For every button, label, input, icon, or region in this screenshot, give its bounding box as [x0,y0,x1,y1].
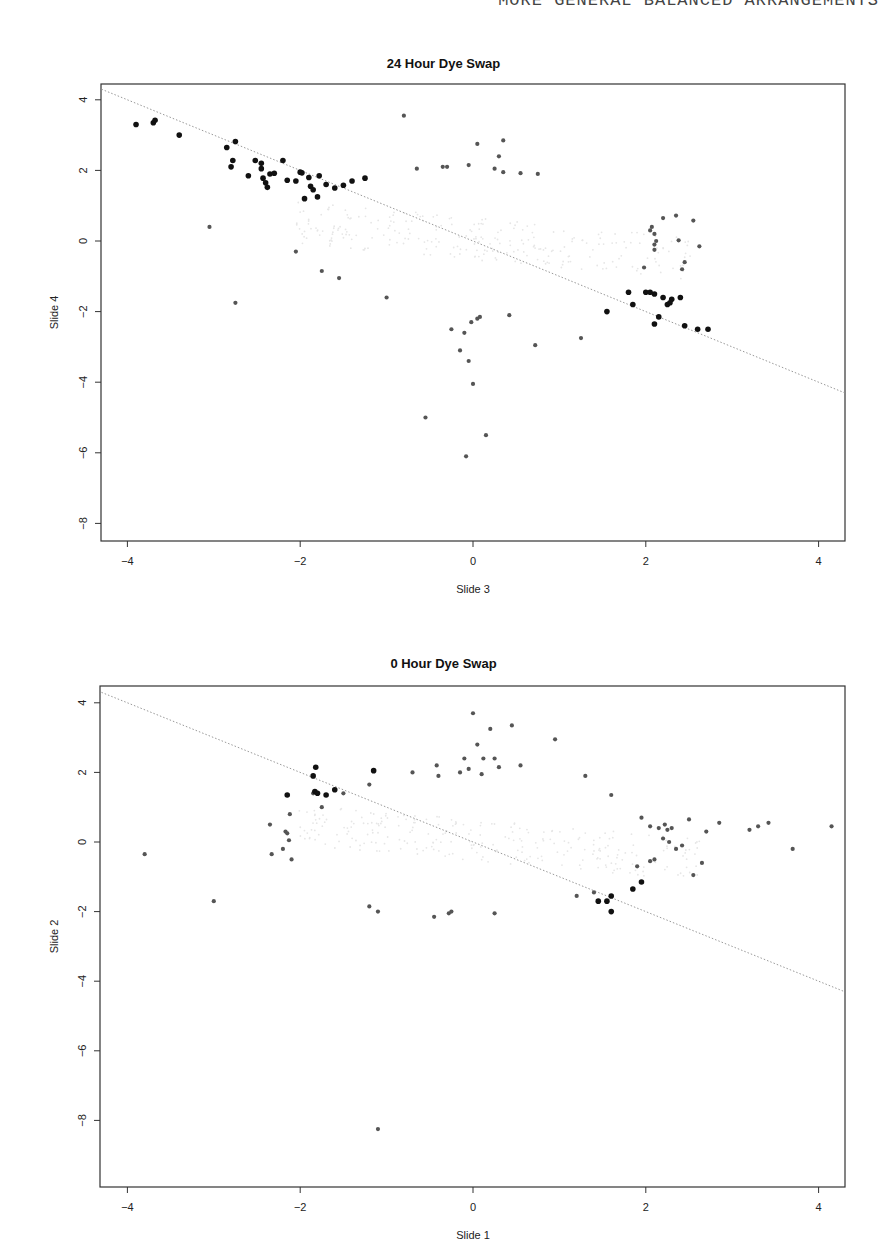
background-point [334,847,336,849]
background-point [677,874,679,876]
data-point [471,711,475,715]
y-axis-label: Slide 2 [48,920,60,954]
background-point [309,837,311,839]
data-point [674,847,678,851]
background-point [599,837,601,839]
background-point [414,841,416,843]
background-point [340,808,342,810]
background-point [385,815,387,817]
background-point [687,837,689,839]
background-point [599,858,601,860]
data-point [704,829,708,833]
background-point [448,853,450,855]
background-point [510,826,512,828]
background-point [452,825,454,827]
x-tick-label: 2 [643,1201,649,1213]
highlighted-point [371,768,377,774]
background-point [377,823,379,825]
background-point [397,816,399,818]
background-point [444,832,446,834]
data-point [667,840,671,844]
data-point [791,847,795,851]
background-point [470,829,472,831]
background-point [322,814,324,816]
background-point [563,840,565,842]
highlighted-point [608,909,614,915]
background-point [536,847,538,849]
background-point [380,823,382,825]
background-point [388,850,390,852]
background-point [682,855,684,857]
background-point [631,852,633,854]
background-point [416,848,418,850]
highlighted-point [639,879,645,885]
data-point [212,899,216,903]
y-tick-label: 2 [76,769,88,775]
background-point [406,842,408,844]
background-point [379,850,381,852]
background-point [314,813,316,815]
background-point [514,822,516,824]
background-point [298,810,300,812]
y-tick-label: −8 [76,1114,88,1127]
highlighted-point [313,764,319,770]
background-point [387,817,389,819]
highlighted-point [608,893,614,899]
background-point [579,837,581,839]
background-point [349,846,351,848]
background-point [405,818,407,820]
background-point [311,829,313,831]
data-point [285,831,289,835]
data-point [143,852,147,856]
background-point [666,847,668,849]
background-point [417,853,419,855]
background-point [607,845,609,847]
data-point [829,824,833,828]
background-point [665,840,667,842]
background-point [607,855,609,857]
data-point [553,737,557,741]
background-point [698,840,700,842]
background-point [404,840,406,842]
background-point [624,852,626,854]
background-point [579,864,581,866]
figure-0-hour-dye-swap: 0 Hour Dye Swap −4−2024420−2−4−6−8Slide … [0,0,887,1239]
background-point [643,866,645,868]
background-point [512,831,514,833]
data-point [480,772,484,776]
background-point [384,843,386,845]
background-point [582,859,584,861]
data-point [592,890,596,894]
data-point [481,756,485,760]
background-point [359,845,361,847]
background-point [299,826,301,828]
data-point [756,824,760,828]
background-point [580,868,582,870]
background-point [597,867,599,869]
x-tick-label: 4 [816,1201,822,1213]
x-tick-label: −4 [121,1201,134,1213]
plot-frame [100,686,845,1187]
background-point [619,868,621,870]
background-point [557,851,559,853]
background-point [584,849,586,851]
background-point [463,824,465,826]
y-tick-label: −2 [76,905,88,918]
data-point [639,816,643,820]
highlighted-point [315,790,321,796]
data-point [488,727,492,731]
background-point [399,839,401,841]
background-point [451,819,453,821]
background-point [559,831,561,833]
data-point [652,857,656,861]
background-point [592,853,594,855]
data-point [635,864,639,868]
data-point [663,823,667,827]
background-point [526,829,528,831]
background-point [367,834,369,836]
background-point [508,837,510,839]
background-point [299,835,301,837]
background-point [694,853,696,855]
background-point [455,821,457,823]
background-point [387,836,389,838]
